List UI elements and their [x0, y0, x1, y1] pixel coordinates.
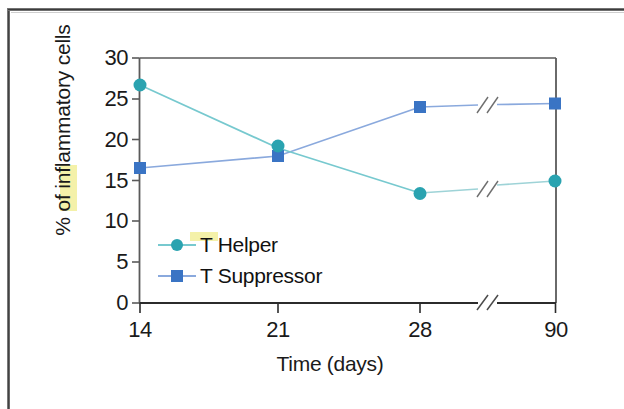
- y-tick-label-25: 25: [88, 86, 128, 112]
- x-axis-title: Time (days): [200, 352, 460, 376]
- y-tick-label-10: 10: [88, 208, 128, 234]
- data-point[interactable]: [414, 101, 426, 113]
- data-point[interactable]: [549, 175, 562, 188]
- x-tick-label-90: 90: [526, 317, 586, 343]
- x-axis-ticks: [140, 303, 556, 313]
- data-point[interactable]: [272, 140, 285, 153]
- data-point[interactable]: [134, 79, 147, 92]
- data-point[interactable]: [134, 162, 146, 174]
- y-tick-label-0: 0: [88, 290, 128, 316]
- series-line-t-suppressor: [140, 97, 555, 168]
- legend-marker-t-suppressor: [158, 270, 196, 282]
- legend-label-t-helper: T Helper: [200, 233, 278, 257]
- y-axis-ticks: [132, 58, 140, 303]
- y-axis-title: % of inflammatory cells: [51, 5, 75, 255]
- x-tick-label-14: 14: [110, 317, 170, 343]
- y-tick-label-15: 15: [88, 168, 128, 194]
- data-point[interactable]: [549, 98, 561, 110]
- y-tick-label-30: 30: [88, 45, 128, 71]
- y-tick-label-20: 20: [88, 127, 128, 153]
- x-tick-label-21: 21: [248, 317, 308, 343]
- legend-label-t-suppressor: T Suppressor: [200, 264, 322, 288]
- x-tick-label-28: 28: [390, 317, 450, 343]
- series-line-t-helper: [140, 85, 555, 197]
- data-point[interactable]: [414, 187, 427, 200]
- x-axis: [140, 295, 557, 310]
- line-chart: 30 25 20 15 10 5 0 14 21 28 90 T Helper …: [0, 0, 624, 409]
- chart-page: 30 25 20 15 10 5 0 14 21 28 90 T Helper …: [0, 0, 624, 409]
- y-tick-label-5: 5: [88, 249, 128, 275]
